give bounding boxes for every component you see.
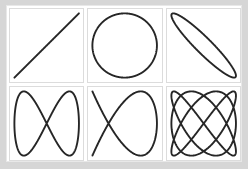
lissajous-curve-4 xyxy=(14,91,79,155)
panel-circle xyxy=(87,8,162,83)
curve-plot-5 xyxy=(88,87,161,160)
curve-plot-2 xyxy=(88,9,161,82)
curve-plot-1 xyxy=(10,9,83,82)
panel-tilted-ellipse xyxy=(166,8,241,83)
panel-diagonal-line xyxy=(9,8,84,83)
panel-lissajous-2-3 xyxy=(87,86,162,161)
lissajous-curve-1 xyxy=(14,13,79,77)
lissajous-curve-2 xyxy=(93,13,158,77)
curve-plot-3 xyxy=(167,9,240,82)
lissajous-figure xyxy=(0,0,248,169)
curve-plot-4 xyxy=(10,87,83,160)
figure-canvas xyxy=(6,5,242,162)
lissajous-curve-3 xyxy=(171,13,236,77)
panel-figure-eight xyxy=(9,86,84,161)
panel-lissajous-3-4 xyxy=(166,86,241,161)
lissajous-curve-5 xyxy=(93,91,158,155)
curve-plot-6 xyxy=(167,87,240,160)
lissajous-curve-6 xyxy=(171,91,236,155)
panel-grid xyxy=(9,8,241,161)
